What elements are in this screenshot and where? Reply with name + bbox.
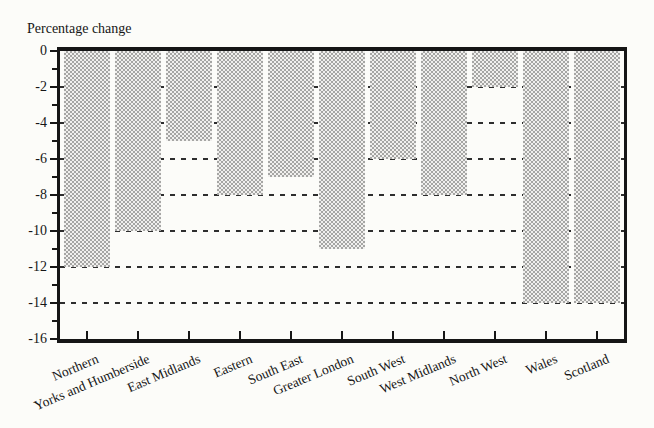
bar-greater-london — [319, 51, 365, 249]
y-axis-tick-major — [50, 302, 57, 304]
bar-slot: Greater London — [319, 51, 365, 339]
y-axis-tick-major — [50, 338, 57, 340]
bar-west-midlands — [421, 51, 467, 195]
x-axis-tick — [596, 331, 598, 339]
y-axis-tick-minor — [52, 284, 57, 286]
bar-slot: East Midlands — [166, 51, 212, 339]
bar-slot: Yorks and Humberside — [115, 51, 161, 339]
bar-slot: Wales — [523, 51, 569, 339]
y-axis-label: -16 — [28, 331, 47, 347]
bar-northern — [64, 51, 110, 267]
bar-slot: West Midlands — [421, 51, 467, 339]
y-axis-tick-major — [50, 86, 57, 88]
chart-title: Percentage change — [27, 20, 132, 38]
bar-east-midlands — [166, 51, 212, 141]
x-axis-tick — [239, 331, 241, 339]
y-axis-tick-minor — [52, 320, 57, 322]
y-axis-tick-minor — [52, 248, 57, 250]
bar-slot: South West — [370, 51, 416, 339]
bar-north-west — [472, 51, 518, 87]
bars-layer: NorthernYorks and HumbersideEast Midland… — [60, 51, 624, 339]
bar-slot: North West — [472, 51, 518, 339]
y-axis-label: -8 — [35, 187, 47, 203]
y-axis-label: 0 — [40, 43, 47, 59]
bar-south-east — [268, 51, 314, 177]
bar-south-west — [370, 51, 416, 159]
y-axis-tick-major — [50, 158, 57, 160]
bar-slot: Scotland — [574, 51, 620, 339]
x-axis-tick — [341, 331, 343, 339]
bar-scotland — [574, 51, 620, 303]
bar-slot: Eastern — [217, 51, 263, 339]
y-axis-label: -10 — [28, 223, 47, 239]
x-axis-label: North West — [447, 351, 510, 390]
y-axis-label: -6 — [35, 151, 47, 167]
x-axis-tick — [392, 331, 394, 339]
x-axis-label: Scotland — [562, 351, 612, 384]
bar-slot: Northern — [64, 51, 110, 339]
y-axis-tick-minor — [52, 212, 57, 214]
y-axis-tick-minor — [52, 104, 57, 106]
x-axis-tick — [290, 331, 292, 339]
y-axis-label: -14 — [28, 295, 47, 311]
x-axis-tick — [137, 331, 139, 339]
y-axis-tick-minor — [52, 68, 57, 70]
bar-chart-figure: Percentage change 0-2-4-6-8-10-12-14-16 … — [0, 0, 654, 428]
y-axis-tick-major — [50, 194, 57, 196]
y-axis-tick-minor — [52, 176, 57, 178]
y-axis-label: -12 — [28, 259, 47, 275]
y-axis-tick-minor — [52, 140, 57, 142]
x-axis-label: Wales — [524, 351, 560, 378]
y-axis-tick-major — [50, 50, 57, 52]
x-axis-tick — [494, 331, 496, 339]
y-axis-label: -2 — [35, 79, 47, 95]
y-axis-tick-major — [50, 230, 57, 232]
bar-wales — [523, 51, 569, 303]
y-axis-tick-major — [50, 266, 57, 268]
y-axis-tick-major — [50, 122, 57, 124]
bar-yorks-and-humberside — [115, 51, 161, 231]
plot-area: 0-2-4-6-8-10-12-14-16 NorthernYorks and … — [57, 47, 627, 343]
x-axis-tick — [86, 331, 88, 339]
bar-slot: South East — [268, 51, 314, 339]
x-axis-tick — [188, 331, 190, 339]
bar-eastern — [217, 51, 263, 195]
x-axis-tick — [443, 331, 445, 339]
x-axis-tick — [545, 331, 547, 339]
y-axis-label: -4 — [35, 115, 47, 131]
